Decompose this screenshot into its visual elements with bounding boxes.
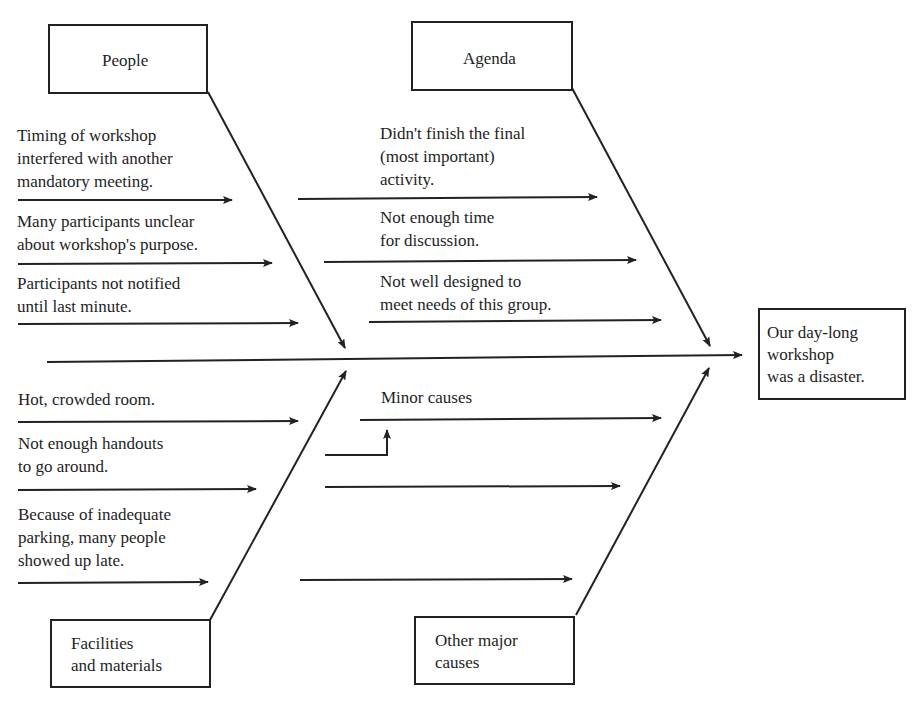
bone-people	[208, 92, 345, 348]
cause-facilities-2: Not enough handouts to go around.	[18, 432, 163, 478]
category-label: Agenda	[463, 48, 516, 70]
category-box-people: People	[48, 24, 208, 94]
bone-agenda	[572, 88, 710, 346]
cause-people-2: Many participants unclear about workshop…	[17, 210, 198, 256]
cause-people-3: Participants not notified until last min…	[17, 272, 180, 318]
cause-agenda-3: Not well designed to meet needs of this …	[380, 270, 551, 316]
cause-agenda-1: Didn't finish the final (most important)…	[380, 122, 525, 191]
minor-causes-label: Minor causes	[381, 386, 472, 409]
cause-facilities-1: Hot, crowded room.	[18, 388, 155, 411]
category-label: Other major causes	[435, 630, 518, 674]
effect-box: Our day-long workshop was a disaster.	[758, 308, 906, 400]
category-label: People	[102, 50, 148, 72]
spine-arrow	[47, 355, 742, 362]
category-box-agenda: Agenda	[411, 21, 573, 91]
category-box-other: Other major causes	[414, 616, 575, 685]
category-label: Facilities and materials	[71, 633, 162, 677]
cause-agenda-2: Not enough time for discussion.	[380, 206, 494, 252]
bone-other	[576, 368, 709, 615]
cause-facilities-3: Because of inadequate parking, many peop…	[18, 503, 171, 572]
effect-label: Our day-long workshop was a disaster.	[767, 322, 865, 388]
bone-facilities	[210, 371, 346, 620]
cause-people-1: Timing of workshop interfered with anoth…	[17, 124, 173, 193]
category-box-facilities: Facilities and materials	[50, 619, 211, 688]
fishbone-diagram: People Agenda Facilities and materials O…	[0, 0, 922, 708]
